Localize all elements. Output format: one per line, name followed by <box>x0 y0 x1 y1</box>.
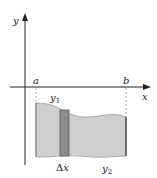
y2-label: y2 <box>101 163 112 176</box>
area-diagram: y x a b y1 y2 Δx <box>0 0 157 178</box>
y-axis-arrow-icon <box>22 13 28 21</box>
y1-label: y1 <box>49 92 60 105</box>
y-axis-label: y <box>12 15 19 26</box>
delta-x-label: Δx <box>56 162 69 173</box>
x-axis-arrow-icon <box>143 84 151 90</box>
bound-b-label: b <box>123 75 129 86</box>
delta-x-strip <box>60 110 69 156</box>
bound-a-label: a <box>33 75 39 86</box>
x-axis-label: x <box>142 91 148 102</box>
shaded-region <box>36 103 126 157</box>
